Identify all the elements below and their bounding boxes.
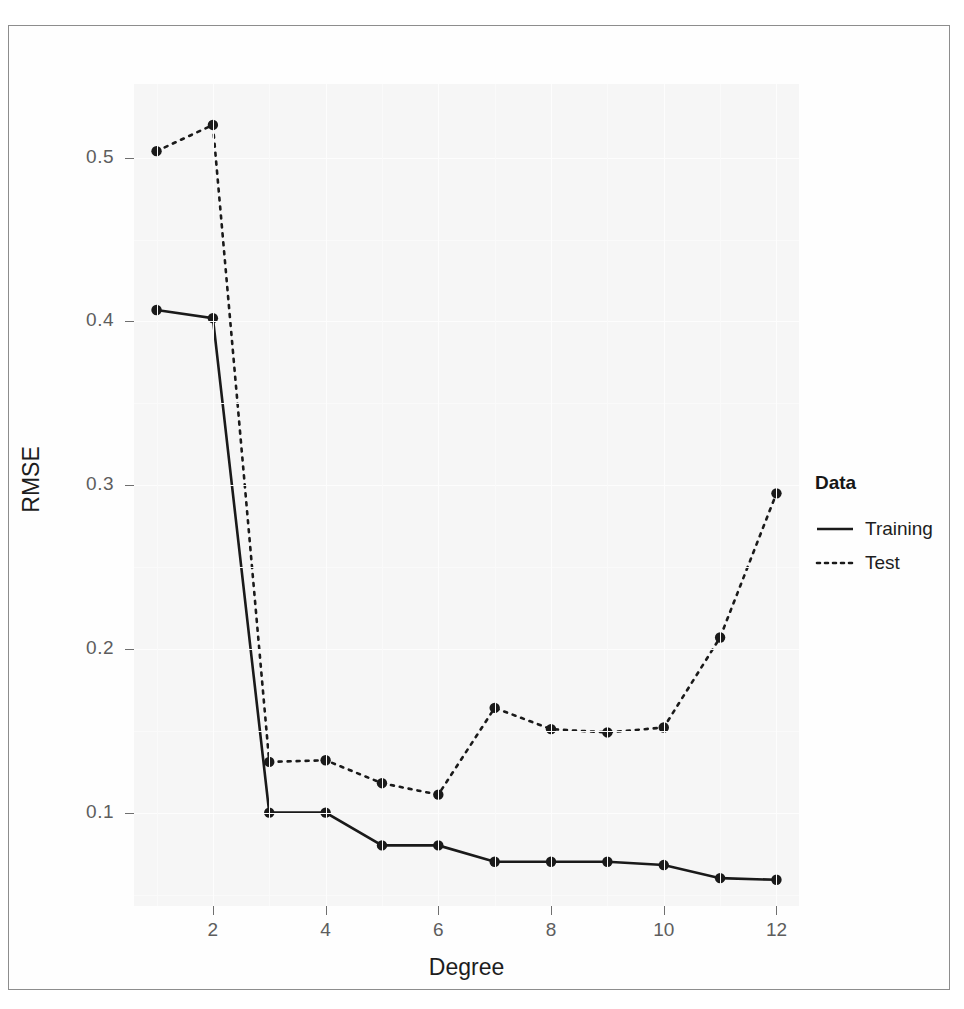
gridline-x-minor [269,84,270,906]
legend-label-training: Training [865,518,933,540]
gridline-x-minor [495,84,496,906]
gridline-x [438,84,439,906]
series-line-training [157,310,777,880]
gridline-y [134,813,799,814]
gridline-y [134,485,799,486]
chart-figure: RMSE Degree 0.10.20.30.40.524681012 Data… [0,0,964,1009]
gridline-y-minor [134,403,799,404]
gridline-x [326,84,327,906]
plot-panel [134,84,799,906]
x-tick-mark [213,906,214,915]
gridline-x-minor [720,84,721,906]
page-border-frame: RMSE Degree 0.10.20.30.40.524681012 Data… [8,25,950,990]
legend-item-test[interactable]: Test [815,546,945,580]
legend-label-test: Test [865,552,900,574]
x-tick-mark [776,906,777,915]
gridline-y-minor [134,895,799,896]
gridline-x-minor [382,84,383,906]
y-tick-label: 0.3 [56,473,114,495]
gridline-y-minor [134,567,799,568]
y-tick-mark [125,649,134,650]
y-tick-label: 0.1 [56,801,114,823]
gridline-x [664,84,665,906]
y-tick-mark [125,813,134,814]
solid-line-key [815,519,855,539]
y-tick-mark [125,321,134,322]
gridline-y-minor [134,240,799,241]
gridline-x [213,84,214,906]
x-tick-label: 10 [644,919,684,941]
gridline-y [134,158,799,159]
x-tick-label: 8 [531,919,571,941]
x-tick-label: 2 [193,919,233,941]
y-tick-mark [125,485,134,486]
gridline-x [776,84,777,906]
y-axis-title: RMSE [18,400,45,560]
gridline-y [134,321,799,322]
y-tick-label: 0.4 [56,309,114,331]
legend-item-training[interactable]: Training [815,512,945,546]
x-tick-mark [326,906,327,915]
x-tick-label: 6 [418,919,458,941]
gridline-x-minor [607,84,608,906]
gridline-y-minor [134,731,799,732]
series-line-test [157,125,777,795]
y-tick-label: 0.5 [56,146,114,168]
x-tick-mark [438,906,439,915]
gridline-y [134,649,799,650]
x-tick-label: 12 [756,919,796,941]
y-tick-label: 0.2 [56,637,114,659]
gridline-x [551,84,552,906]
legend: Data Training Test [815,472,945,580]
x-tick-mark [664,906,665,915]
gridline-x-minor [157,84,158,906]
legend-title: Data [815,472,945,494]
x-axis-title: Degree [134,954,799,981]
y-tick-mark [125,158,134,159]
x-tick-label: 4 [306,919,346,941]
series-layer [134,84,799,906]
dotted-line-key [815,553,855,573]
x-tick-mark [551,906,552,915]
